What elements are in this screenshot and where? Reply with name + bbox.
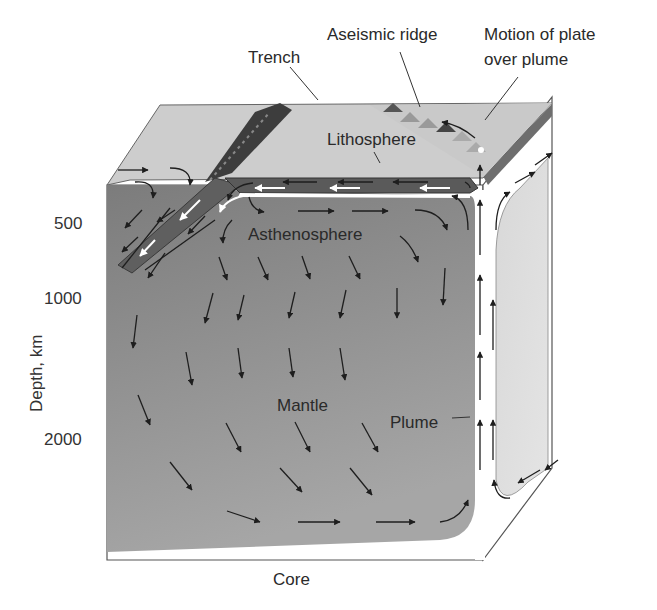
plume-label: Plume [390, 413, 438, 432]
motion-of-plate-label-line1: Motion of plate [484, 25, 596, 44]
lithosphere-slab [225, 178, 478, 193]
mantle-convection-diagram: Trench Aseismic ridge Motion of plate ov… [0, 0, 657, 610]
asthenosphere-label: Asthenosphere [248, 225, 362, 244]
motion-of-plate-label-line2: over plume [484, 50, 568, 69]
mantle-label: Mantle [277, 396, 328, 415]
lithosphere-label: Lithosphere [327, 130, 416, 149]
aseismic-ridge-label: Aseismic ridge [327, 25, 438, 44]
depth-tick-500: 500 [54, 214, 82, 233]
depth-axis-label: Depth, km [27, 335, 46, 412]
depth-tick-2000: 2000 [44, 430, 82, 449]
core-label: Core [273, 570, 310, 589]
trench-label: Trench [248, 48, 300, 67]
depth-tick-1000: 1000 [44, 289, 82, 308]
